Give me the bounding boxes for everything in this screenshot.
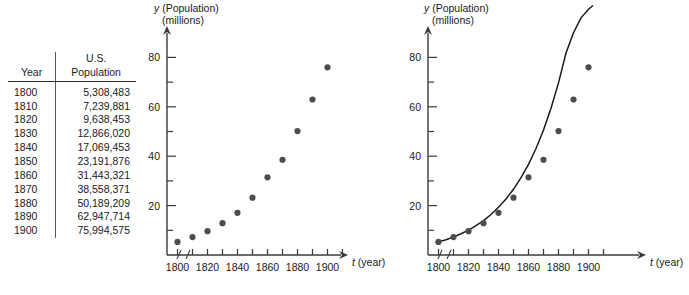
cell-year: 1860 [8,169,56,183]
cell-population: 62,947,714 [56,210,136,224]
y-tick-label: 60 [409,101,421,113]
x-axis-label: t (year) [352,256,385,268]
y-tick-label: 40 [409,150,421,162]
us-population-table: Year U.S. Population 18005,308,48318107,… [8,52,136,238]
y-axis-label-line2-right: (millions) [432,14,474,26]
table-row: 188050,189,209 [8,197,136,211]
ticks-group-right [428,57,604,255]
scatter-plot-svg: y (Population) (millions) t (year) 18001… [130,0,400,295]
x-tick-label: 1800 [427,261,451,273]
table-header-row: Year U.S. Population [8,52,136,81]
y-axis-label-line1: y (Population) [153,2,219,14]
data-point [309,96,315,102]
table-row: 18005,308,483 [8,86,136,100]
fit-curve-group [436,6,594,243]
data-point [540,157,546,163]
x-tick-label: 1900 [316,261,340,273]
cell-population: 5,308,483 [56,86,136,100]
table-row: 186031,443,321 [8,169,136,183]
data-point [324,64,330,70]
x-tick-label: 1800 [166,261,190,273]
data-point [465,228,471,234]
table-row: 190075,994,575 [8,224,136,238]
cell-year: 1840 [8,141,56,155]
data-point [435,239,441,245]
y-tick-label: 40 [148,150,160,162]
scatter-fit-plot-panel: y (Population) (millions) t (year) 18001… [400,0,689,295]
scatter-fit-plot-svg: y (Population) (millions) t (year) 18001… [400,0,689,295]
x-tick-label: 1880 [286,261,310,273]
us-population-table-wrapper: Year U.S. Population 18005,308,48318107,… [8,52,136,238]
y-tick-label: 20 [409,200,421,212]
data-point [189,234,195,240]
cell-population: 23,191,876 [56,155,136,169]
cell-year: 1830 [8,127,56,141]
y-axis-label-line1-right: y (Population) [423,2,489,14]
x-tick-label: 1900 [577,261,601,273]
cell-population: 17,069,453 [56,141,136,155]
axes-group [163,26,348,259]
x-tick-label: 1860 [517,261,541,273]
x-tick-label: 1840 [226,261,250,273]
scatter-plot-panel: y (Population) (millions) t (year) 18001… [130,0,400,295]
data-point [495,210,501,216]
table-row: 18209,638,453 [8,113,136,127]
x-tick-label: 1860 [256,261,280,273]
cell-year: 1880 [8,197,56,211]
cell-year: 1810 [8,100,56,114]
cell-year: 1900 [8,224,56,238]
table-row: 18107,239,881 [8,100,136,114]
data-point [570,96,576,102]
table-row: 183012,866,020 [8,127,136,141]
data-point [294,128,300,134]
table-body: 18005,308,48318107,239,88118209,638,4531… [8,86,136,238]
cell-population: 38,558,371 [56,183,136,197]
ticks-group [167,57,343,255]
x-tick-label: 1820 [457,261,481,273]
table-row: 184017,069,453 [8,141,136,155]
axes-group-right [424,26,646,259]
cell-year: 1870 [8,183,56,197]
data-point [264,174,270,180]
column-header-population: U.S. Population [56,52,136,81]
table-row: 187038,558,371 [8,183,136,197]
exponential-fit-curve [436,6,594,243]
column-header-population-line1: U.S. [62,52,130,66]
y-tick-label: 80 [148,51,160,63]
data-point [174,239,180,245]
y-tick-label: 60 [148,101,160,113]
table-row: 189062,947,714 [8,210,136,224]
x-axis-label-right: t (year) [650,256,683,268]
x-tick-label: 1820 [196,261,220,273]
column-header-year: Year [8,52,56,81]
table-head: Year U.S. Population [8,52,136,86]
y-tick-label: 20 [148,200,160,212]
table-row: 185023,191,876 [8,155,136,169]
cell-population: 7,239,881 [56,100,136,114]
cell-population: 50,189,209 [56,197,136,211]
data-point [480,220,486,226]
data-point [219,220,225,226]
data-point [279,157,285,163]
data-point [510,195,516,201]
data-point [555,128,561,134]
cell-population: 9,638,453 [56,113,136,127]
x-tick-label: 1840 [487,261,511,273]
x-tick-label: 1880 [547,261,571,273]
cell-year: 1890 [8,210,56,224]
data-point [249,195,255,201]
cell-population: 12,866,020 [56,127,136,141]
cell-population: 31,443,321 [56,169,136,183]
y-tick-label: 80 [409,51,421,63]
data-point [234,210,240,216]
data-point [585,64,591,70]
column-header-population-line2: Population [62,66,130,80]
cell-year: 1800 [8,86,56,100]
cell-year: 1820 [8,113,56,127]
data-point [450,234,456,240]
data-point [525,174,531,180]
y-axis-label-line2: (millions) [162,14,204,26]
data-points-group [174,64,330,245]
cell-year: 1850 [8,155,56,169]
data-point [204,228,210,234]
